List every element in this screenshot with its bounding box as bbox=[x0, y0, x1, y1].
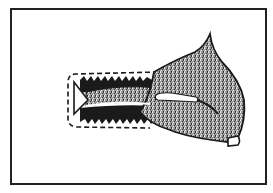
fabric-tab bbox=[228, 136, 240, 146]
sewing-diagram bbox=[0, 0, 273, 193]
illustration-canvas bbox=[0, 0, 273, 193]
fabric-fold bbox=[140, 34, 244, 142]
